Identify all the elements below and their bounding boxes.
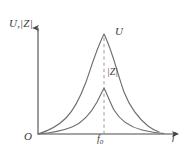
curve-u — [38, 34, 159, 134]
f0-tick-label-subscript: 0 — [100, 138, 104, 146]
resonance-curve-figure: U,|Z| O f f0 U |Z| — [0, 0, 191, 157]
f0-tick-label: f0 — [97, 134, 103, 146]
origin-label: O — [24, 131, 32, 142]
x-axis-label: f — [172, 131, 175, 142]
curve-u-label: U — [115, 26, 123, 37]
curve-z-label: |Z| — [107, 67, 118, 77]
y-axis-label: U,|Z| — [9, 18, 33, 29]
curve-z — [38, 88, 164, 134]
